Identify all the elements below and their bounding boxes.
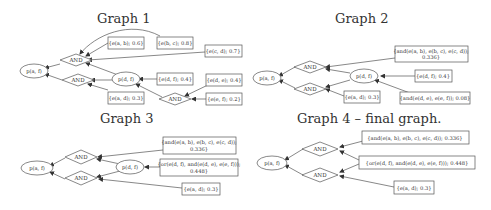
diagram-canvas: p(a, f) p(d, f) AND AND AND {e(a, b); 0.… <box>0 0 491 210</box>
graph1-box-e-cd-label: {e(c, d); 0.7} <box>206 48 241 54</box>
graph2-and2-label: AND <box>302 86 317 92</box>
graph1-and3-label: AND <box>167 96 182 102</box>
graph4-box-or-df-label: {or(e(d, f), and(e(d, e), e(e, f))); 0.4… <box>366 160 469 166</box>
graph4-box-and-abcd-label: {and(e(a, b), e(b, c), e(c, d)); 0.336} <box>367 135 462 141</box>
graph3-mid-label: p(d, f) <box>122 164 138 171</box>
graph2-box-e-df-label: {e(d, f); 0.4} <box>416 73 450 79</box>
graph3-and1-label: AND <box>73 154 88 160</box>
graph1-box-e-ab-label: {e(a, b); 0.6} <box>108 40 143 46</box>
graph1-and1-label: AND <box>68 57 83 63</box>
graph3-box-and-abcd-line1: {and(e(a, b), e(b, c), e(c, d)); <box>161 139 237 145</box>
graph1: p(a, f) p(d, f) AND AND AND {e(a, b); 0.… <box>20 29 242 105</box>
graph3-box-and-abcd-line2: 0.336} <box>190 146 208 152</box>
graph3-root-label: p(a, f) <box>29 165 45 172</box>
graph2-box-and-def-label: {and(e(d, e), e(e, f)); 0.08} <box>400 95 471 101</box>
graph4-and2-label: AND <box>312 172 327 178</box>
graph1-box-e-ad-label: {e(a, d); 0.3} <box>108 95 143 101</box>
graph3-and2-label: AND <box>73 175 88 181</box>
graph2-and1-label: AND <box>302 64 317 70</box>
graph3: p(a, f) p(d, f) AND AND {and(e(a, b), e(… <box>21 137 241 195</box>
graph2-root-label: p(a, f) <box>259 75 275 82</box>
graph1-root-label: p(a, f) <box>26 68 42 75</box>
graph3-box-or-df-line2: 0.448} <box>190 168 208 174</box>
graph1-box-e-df-label: {e(d, f); 0.4} <box>158 76 192 82</box>
graph1-box-e-ef-label: {e(e, f); 0.2} <box>207 96 241 102</box>
graph1-box-e-bc-label: {e(b, c); 0.8} <box>158 40 193 46</box>
graph1-and2-label: AND <box>70 77 85 83</box>
graph3-box-e-ad-label: {e(a, d); 0.3} <box>183 186 218 192</box>
graph2: p(a, f) p(d, f) AND AND {and(e(a, b), e(… <box>253 46 470 104</box>
graph2-box-and-abcd-line2: 0.336} <box>422 54 440 60</box>
graph1-box-e-de-label: {e(d, e); 0.4} <box>206 77 241 83</box>
graph2-mid-label: p(d, f) <box>356 73 372 80</box>
graph4-box-e-ad-label: {e(a, d); 0.3} <box>396 185 431 191</box>
graph3-box-or-df-line1: {or(e(d, f), and(e(d, e), e(e, f))); <box>158 161 241 167</box>
graph1-mid-label: p(d, f) <box>118 76 134 83</box>
graph2-box-e-ad-label: {e(a, d); 0.3} <box>344 94 379 100</box>
graph4-root-label: p(a, f) <box>264 160 280 167</box>
graph4: p(a, f) AND AND {and(e(a, b), e(b, c), e… <box>257 131 475 194</box>
graph4-and1-label: AND <box>312 146 327 152</box>
